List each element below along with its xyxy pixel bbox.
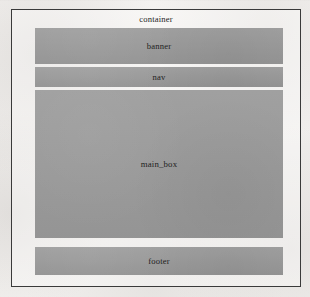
footer-label: footer bbox=[148, 256, 169, 267]
scanned-page: container banner nav main_box footer bbox=[0, 0, 310, 297]
banner-label: banner bbox=[147, 41, 171, 52]
nav-block: nav bbox=[35, 67, 283, 87]
main-box-block: main_box bbox=[35, 90, 283, 238]
nav-label: nav bbox=[153, 72, 166, 83]
container-box: container banner nav main_box footer bbox=[11, 9, 301, 287]
container-label: container bbox=[12, 14, 300, 25]
footer-block: footer bbox=[35, 247, 283, 275]
main-box-label: main_box bbox=[141, 159, 177, 170]
banner-block: banner bbox=[35, 28, 283, 64]
